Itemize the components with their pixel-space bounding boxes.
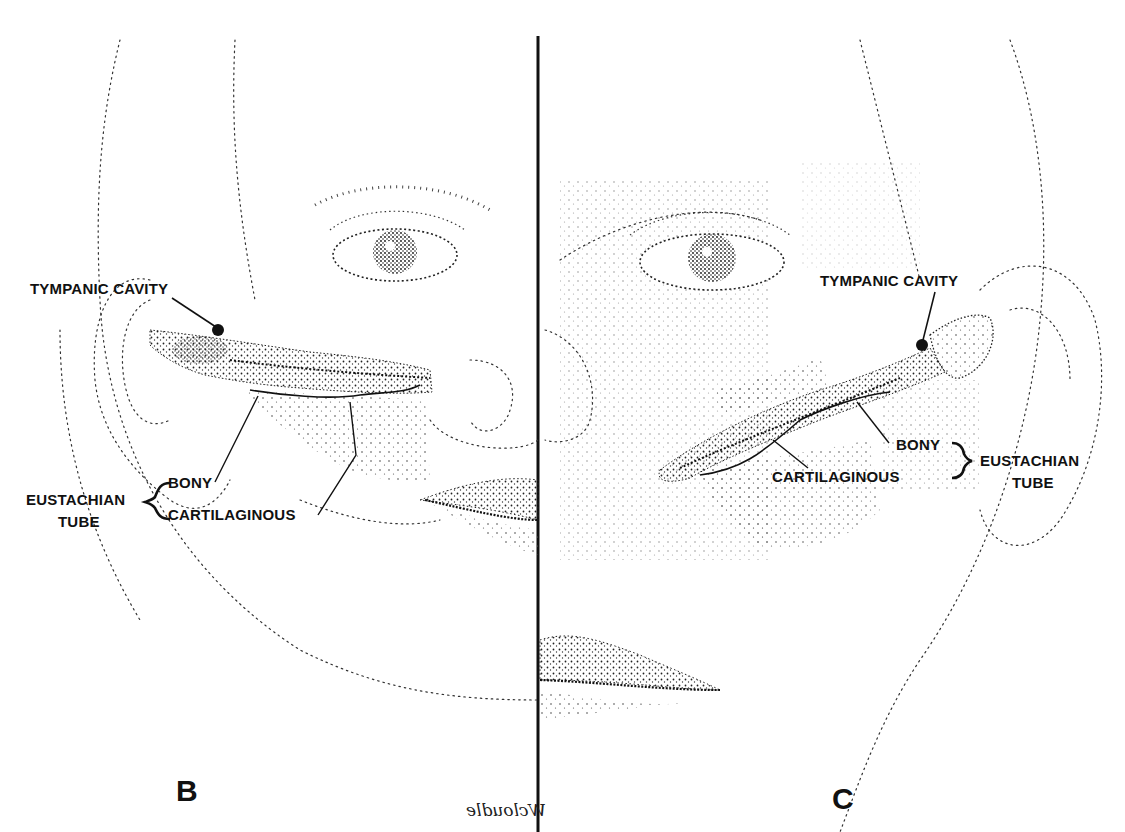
panel-b-cartilaginous-label: CARTILAGINOUS xyxy=(168,506,296,523)
panel-b-lips xyxy=(420,479,538,555)
eustachian-tube-illustration: TYMPANIC CAVITY BONY CARTILAGINOUS EUSTA… xyxy=(0,0,1125,832)
figure-drawing xyxy=(0,0,1125,832)
panel-c-tube-label: TUBE xyxy=(1012,474,1054,491)
panel-c-letter: C xyxy=(832,782,854,816)
panel-b-eye xyxy=(315,187,490,281)
panel-c-tympanic-cavity-label: TYMPANIC CAVITY xyxy=(820,272,958,289)
panel-c-bony-label: BONY xyxy=(896,436,940,453)
panel-b-letter: B xyxy=(176,774,198,808)
panel-c-lips xyxy=(540,636,720,720)
panel-c-cartilaginous-label: CARTILAGINOUS xyxy=(772,468,900,485)
panel-b-tympanic-cavity-label: TYMPANIC CAVITY xyxy=(30,280,168,297)
artist-signature: Wcloudle xyxy=(466,800,546,820)
panel-b-tube-label: TUBE xyxy=(58,513,100,530)
panel-b-bony-label: BONY xyxy=(168,474,212,491)
panel-c-eustachian-label: EUSTACHIAN xyxy=(980,452,1079,469)
panel-b-eustachian-label: EUSTACHIAN xyxy=(26,491,125,508)
